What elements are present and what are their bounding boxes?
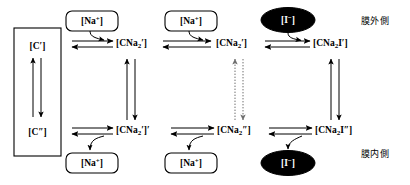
- top-sodium-feed-curve-1: [90, 31, 104, 40]
- bottom-iodide-release-curve: [288, 136, 302, 149]
- membrane-transport-diagram: [C′] [C″] [CNa2′] [CNa2′] [CNa2I′] [CNa2…: [0, 0, 410, 185]
- outer-node-cna2-prime-2: [CNa2′]: [216, 39, 247, 50]
- bottom-reaction-arrows-3: [269, 128, 312, 134]
- top-reaction-arrows-3: [265, 41, 310, 47]
- inner-node-cna2i-dprime: [CNa2I″]: [315, 126, 352, 137]
- top-reaction-arrows-2: [163, 41, 211, 47]
- bottom-sodium-label-1: [Na+]: [66, 158, 118, 169]
- inner-node-cna2-dprime: [CNa2″]: [217, 126, 251, 137]
- bottom-iodide-label: [I−]: [261, 158, 315, 169]
- outer-membrane-side-label: 膜外側: [361, 17, 389, 26]
- bottom-sodium-release-curve-2: [189, 136, 203, 150]
- top-sodium-label-1: [Na+]: [66, 16, 118, 27]
- translocation-arrows-right: [331, 59, 339, 120]
- carrier-inner-label: [C″]: [14, 128, 61, 138]
- outer-node-cna2i-prime: [CNa2I′]: [313, 39, 348, 50]
- bottom-reaction-arrows-1: [72, 128, 113, 134]
- outer-node-cna2-prime-1: [CNa2′]: [116, 39, 147, 50]
- inner-membrane-side-label: 膜内側: [361, 150, 389, 159]
- carrier-outer-label: [C′]: [14, 42, 61, 52]
- translocation-arrows-left: [127, 59, 135, 120]
- bottom-reaction-arrows-2: [171, 128, 214, 134]
- top-sodium-feed-curve-2: [189, 31, 203, 40]
- translocation-arrows-middle-dotted: [235, 59, 243, 120]
- bottom-sodium-label-2: [Na+]: [165, 158, 217, 169]
- bottom-sodium-release-curve-1: [90, 136, 104, 150]
- top-sodium-label-2: [Na+]: [165, 16, 217, 27]
- inner-node-cna2-prime-prime-1: [CNa2′]′: [116, 126, 150, 137]
- top-iodide-feed-curve: [288, 33, 301, 40]
- top-reaction-arrows-1: [72, 41, 113, 47]
- top-iodide-label: [I−]: [261, 15, 315, 26]
